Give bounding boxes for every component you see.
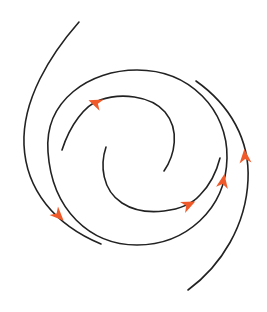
diagram-svg xyxy=(0,0,267,312)
streamlines xyxy=(24,22,248,290)
arrow-inner-top-icon xyxy=(86,95,103,111)
outer-left-arc-curve xyxy=(24,22,101,244)
direction-arrows xyxy=(50,95,252,225)
big-loop-curve xyxy=(48,70,227,245)
spiral-vortex-diagram xyxy=(0,0,267,312)
inner-top-arc-curve xyxy=(62,96,174,171)
inner-bottom-arc-curve xyxy=(103,147,220,212)
arrow-outer-left-icon xyxy=(50,207,68,225)
arrow-big-loop-icon xyxy=(216,173,230,189)
arrow-outer-right-icon xyxy=(238,149,251,164)
